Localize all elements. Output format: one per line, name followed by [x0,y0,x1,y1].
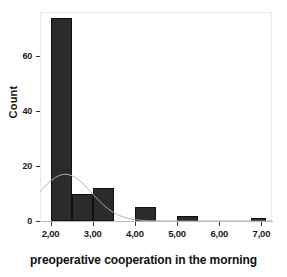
y-tick-mark [36,111,40,112]
y-tick-label: 60 [0,52,32,61]
x-tick-mark [177,222,178,226]
x-tick-label: 3,00 [73,228,113,239]
x-axis-line [40,221,273,222]
histogram-bar [93,188,114,221]
x-tick-mark [51,222,52,226]
plot-area [40,12,272,222]
x-tick-label: 7,00 [241,228,281,239]
x-tick-mark [135,222,136,226]
y-tick-mark [36,166,40,167]
histogram-bar [135,207,156,221]
y-tick-label: 0 [0,217,32,226]
x-tick-label: 4,00 [115,228,155,239]
y-tick-mark [36,221,40,222]
x-tick-mark [261,222,262,226]
histogram-chart: 0204060 Count 2,003,004,005,006,007,00 p… [0,0,287,277]
histogram-bar [72,194,93,222]
y-axis-title: Count [7,72,19,132]
x-tick-label: 6,00 [199,228,239,239]
x-tick-mark [93,222,94,226]
histogram-bar [51,18,72,222]
y-tick-label: 20 [0,162,32,171]
x-tick-mark [219,222,220,226]
x-axis-title: preoperative cooperation in the morning [0,253,287,267]
x-tick-label: 5,00 [157,228,197,239]
y-tick-mark [36,56,40,57]
x-tick-label: 2,00 [31,228,71,239]
